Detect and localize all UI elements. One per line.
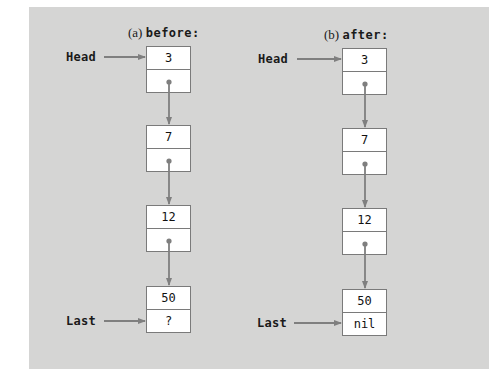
list-node-after-4: 50 nil [342,289,387,336]
node-value: 12 [343,209,386,232]
list-node-before-2: 7 [146,125,191,172]
caption-tag: (b) [324,27,339,42]
node-next [147,229,190,251]
node-next: ? [147,310,190,332]
list-node-after-3: 12 [342,208,387,255]
node-value: 12 [147,206,190,229]
caption-word: before: [146,26,200,40]
node-next [147,149,190,171]
node-next [343,72,386,94]
caption-word: after: [342,28,388,42]
last-label-before: Last [66,314,96,328]
node-value: 7 [147,126,190,149]
head-label-before: Head [66,50,96,64]
head-label-after: Head [258,52,288,66]
caption-after: (b) after: [324,27,389,43]
node-next [147,70,190,92]
caption-before: (a) before: [128,25,200,41]
node-next [343,232,386,254]
last-label-after: Last [257,316,287,330]
node-value: 3 [343,49,386,72]
list-node-after-1: 3 [342,48,387,95]
node-value: 50 [147,287,190,310]
node-next [343,152,386,174]
node-value: 7 [343,129,386,152]
list-node-before-3: 12 [146,205,191,252]
node-next: nil [343,313,386,335]
list-node-after-2: 7 [342,128,387,175]
node-value: 3 [147,47,190,70]
list-node-before-1: 3 [146,46,191,93]
node-value: 50 [343,290,386,313]
list-node-before-4: 50 ? [146,286,191,333]
caption-tag: (a) [128,25,142,40]
